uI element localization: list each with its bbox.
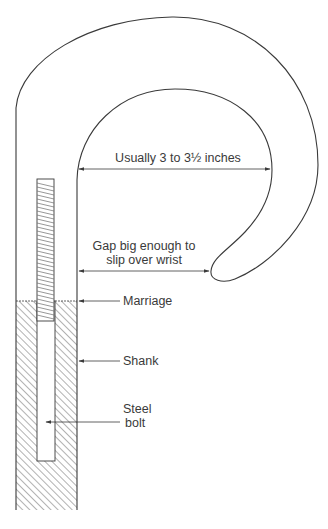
bolt-label-line2: bolt bbox=[125, 416, 146, 430]
gap-label-line1: Gap big enough to bbox=[93, 239, 196, 253]
steel-bolt-threaded bbox=[37, 179, 54, 321]
bolt-label-line1: Steel bbox=[123, 402, 152, 416]
shank-label: Shank bbox=[123, 354, 159, 368]
crook-width-dimension: Usually 3 to 3½ inches bbox=[79, 151, 270, 169]
marriage-label: Marriage bbox=[123, 294, 172, 308]
shank-callout: Shank bbox=[79, 354, 159, 368]
crook-width-label: Usually 3 to 3½ inches bbox=[115, 151, 241, 165]
crook-handle-diagram: Usually 3 to 3½ inches Gap big enough to… bbox=[0, 0, 328, 529]
marriage-callout: Marriage bbox=[79, 294, 172, 308]
gap-label-line2: slip over wrist bbox=[106, 253, 182, 267]
gap-dimension: Gap big enough to slip over wrist bbox=[79, 239, 209, 271]
steel-bolt-lower bbox=[37, 301, 55, 461]
